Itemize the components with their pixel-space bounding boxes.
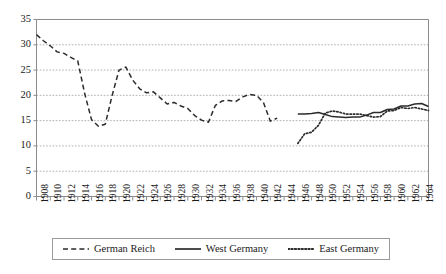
x-tick-label: 1928 [178, 184, 188, 203]
plot-background [37, 20, 429, 197]
x-tick-label: 1912 [68, 184, 78, 203]
x-tick-label: 1960 [398, 184, 408, 203]
x-tick-label: 1948 [316, 184, 326, 203]
chart-legend: German ReichWest GermanyEast Germany [52, 238, 390, 260]
legend-entry-west-germany: West Germany [175, 244, 268, 255]
x-tick-label: 1932 [206, 184, 216, 203]
x-tick-label: 1916 [96, 184, 106, 203]
x-tick-label: 1958 [384, 184, 394, 203]
legend-entry-german-reich: German Reich [63, 244, 155, 255]
x-tick-label: 1954 [357, 184, 367, 203]
x-tick-label: 1924 [151, 184, 161, 203]
x-tick-label: 1922 [137, 184, 147, 203]
y-tick-label: 5 [13, 166, 31, 177]
x-tick-label: 1910 [54, 184, 64, 203]
x-tick-label: 1964 [426, 184, 436, 203]
x-tick-label: 1936 [233, 184, 243, 203]
x-tick-label: 1930 [192, 184, 202, 203]
y-tick-label: 10 [13, 140, 31, 151]
x-tick-label: 1956 [371, 184, 381, 203]
x-tick-label: 1946 [302, 184, 312, 203]
legend-label: German Reich [94, 244, 155, 255]
x-tick-label: 1926 [164, 184, 174, 203]
y-tick-label: 25 [13, 65, 31, 76]
x-tick-label: 1934 [219, 184, 229, 203]
x-tick-label: 1952 [343, 184, 353, 203]
y-tick-label: 20 [13, 90, 31, 101]
x-tick-label: 1918 [109, 184, 119, 203]
x-tick-label: 1920 [123, 184, 133, 203]
chart-canvas [0, 0, 446, 274]
x-tick-label: 1940 [261, 184, 271, 203]
legend-swatch-dashed-icon [63, 245, 89, 253]
line-chart: 35302520151050 1908191019121914191619181… [0, 0, 446, 274]
x-tick-label: 1944 [288, 184, 298, 203]
x-tick-label: 1908 [41, 184, 51, 203]
legend-label: West Germany [206, 244, 268, 255]
y-tick-label: 30 [13, 39, 31, 50]
legend-swatch-dotted-icon [288, 245, 314, 253]
x-tick-label: 1950 [329, 184, 339, 203]
x-tick-label: 1914 [82, 184, 92, 203]
y-tick-label: 15 [13, 115, 31, 126]
y-tick-label: 0 [13, 191, 31, 202]
x-tick-label: 1962 [412, 184, 422, 203]
legend-label: East Germany [319, 244, 379, 255]
x-tick-label: 1942 [274, 184, 284, 203]
legend-swatch-solid-icon [175, 245, 201, 253]
x-tick-label: 1938 [247, 184, 257, 203]
y-tick-label: 35 [13, 14, 31, 25]
legend-entry-east-germany: East Germany [288, 244, 379, 255]
